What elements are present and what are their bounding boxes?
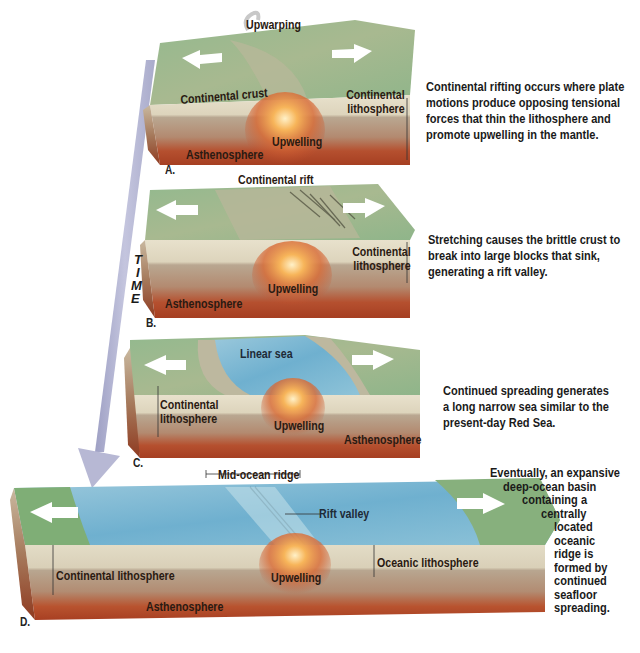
caption-d-line: centrally [541,507,625,521]
panel-letter-d: D. [20,615,30,629]
label-asthenosphere-d: Asthenosphere [146,600,223,614]
caption-d-line: oceanic [554,534,627,548]
label-asthenosphere-b: Asthenosphere [165,297,242,311]
caption-d-line: deep-ocean basin [503,480,619,494]
time-letter-e: E [131,291,140,306]
label-continental-rift: Continental rift [238,173,314,187]
label-asthenosphere-a: Asthenosphere [186,148,263,162]
label-rift-valley: Rift valley [319,507,369,521]
caption-d-line: seafloor [554,588,627,602]
label-continental-lithosphere-a: Continental lithosphere [340,88,405,116]
caption-d-line: spreading. [554,601,627,615]
label-continental-lithosphere-c: Continental lithosphere [160,398,225,426]
caption-d-line: Eventually, an expansive [490,466,618,480]
label-linear-sea: Linear sea [240,347,293,361]
label-upwelling-a: Upwelling [272,135,322,149]
label-mid-ocean-ridge: Mid-ocean ridge [218,468,299,482]
label-upwelling-d: Upwelling [271,571,321,585]
label-oceanic-lithosphere: Oceanic lithosphere [377,556,479,570]
label-upwelling-c: Upwelling [274,419,324,433]
label-asthenosphere-c: Asthenosphere [344,433,421,447]
label-continental-lithosphere-d: Continental lithosphere [56,569,175,583]
panel-letter-a: A. [165,163,175,177]
caption-d-line: ridge is [554,547,627,561]
label-upwelling-b: Upwelling [268,282,318,296]
caption-c: Continued spreading generates a long nar… [443,383,617,431]
rifting-diagram: T I M E Upwarping Continental crust Cont… [0,0,640,653]
caption-a: Continental rifting occurs where plate m… [426,79,630,143]
caption-d-line: located [554,520,627,534]
caption-d-line: formed by [554,561,627,575]
caption-d-line: containing a [522,493,622,507]
caption-d: Eventually, an expansive deep-ocean basi… [490,466,640,615]
block-d [10,470,560,620]
panel-letter-c: C. [133,456,143,470]
label-upwarping: Upwarping [246,18,301,32]
panel-letter-b: B. [146,316,156,330]
caption-b: Stretching causes the brittle crust to b… [428,232,636,280]
caption-d-line: continued [554,574,627,588]
label-continental-lithosphere-b: Continental lithosphere [346,245,411,273]
